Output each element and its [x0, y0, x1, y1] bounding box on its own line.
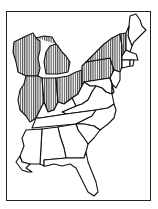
state-massachusetts — [122, 50, 138, 60]
state-mississippi — [20, 129, 42, 164]
state-wisconsin — [13, 33, 40, 76]
state-rhode-island — [130, 60, 134, 66]
state-michigan — [36, 36, 70, 74]
eastern-us-range-map — [0, 0, 158, 209]
state-connecticut — [122, 60, 130, 68]
state-maine — [128, 14, 146, 46]
